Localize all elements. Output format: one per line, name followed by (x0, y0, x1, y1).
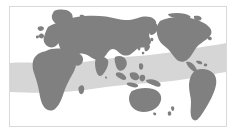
land-kuril (151, 38, 154, 42)
land-korea (138, 47, 141, 51)
world-map-frame (9, 6, 227, 127)
land-hispaniola (204, 64, 208, 67)
figure-root (0, 0, 236, 136)
land-japan-south (142, 52, 145, 55)
land-new-zealand-south (168, 111, 172, 116)
world-map-canvas (10, 7, 226, 126)
